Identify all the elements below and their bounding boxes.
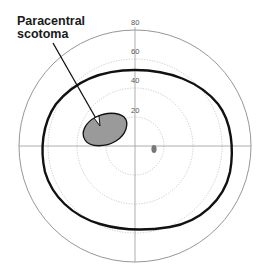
paracentral-scotoma — [83, 113, 127, 146]
visual-field-diagram: 80 60 40 20 — [0, 0, 261, 276]
axis-label-20: 20 — [131, 106, 139, 115]
callout-pointer — [53, 43, 98, 122]
axis-label-60: 60 — [131, 47, 139, 56]
axis-label-80: 80 — [131, 18, 139, 27]
visual-field-boundary — [43, 70, 232, 229]
axis-label-40: 40 — [131, 76, 139, 85]
blind-spot — [151, 145, 156, 153]
